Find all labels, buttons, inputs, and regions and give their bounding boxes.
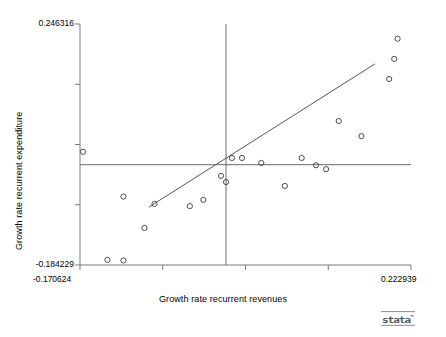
data-point [395, 36, 400, 41]
data-point [121, 194, 126, 199]
data-point [336, 118, 341, 123]
data-point [105, 257, 110, 262]
linear-fit-line [149, 64, 375, 207]
data-point [313, 163, 318, 168]
stata-logo: stata™ [381, 311, 415, 325]
data-point [299, 155, 304, 160]
trademark-icon: ™ [410, 314, 414, 320]
y-axis-ticks [75, 24, 80, 265]
data-point [359, 134, 364, 139]
axis-lines [80, 24, 411, 265]
data-point [239, 155, 244, 160]
linear-fit [149, 64, 375, 207]
data-point [80, 149, 85, 154]
data-point [324, 167, 329, 172]
data-point [201, 197, 206, 202]
data-point [229, 155, 234, 160]
data-point [187, 203, 192, 208]
x-axis-ticks [80, 265, 411, 270]
stata-logo-text: stata [382, 314, 410, 325]
data-point [218, 173, 223, 178]
scatter-plot-figure: Growth rate recurrent expenditure Growth… [0, 0, 446, 337]
reference-lines [80, 24, 411, 265]
data-point [142, 225, 147, 230]
plot-canvas [0, 0, 446, 337]
data-point [387, 76, 392, 81]
data-point [392, 56, 397, 61]
data-point [121, 258, 126, 263]
data-point [282, 183, 287, 188]
